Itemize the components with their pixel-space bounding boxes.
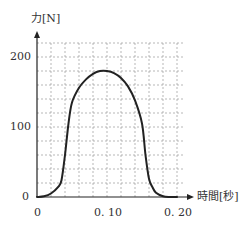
axes <box>34 31 194 200</box>
force-curve <box>37 71 177 197</box>
y-tick-0: 0 <box>22 191 29 202</box>
x-tick-010: 0. 10 <box>94 207 122 218</box>
y-axis-label: 力[N] <box>31 13 60 24</box>
x-tick-020: 0. 20 <box>164 207 192 218</box>
y-tick-200: 200 <box>10 51 31 62</box>
x-tick-0: 0 <box>34 207 41 218</box>
grid-lines <box>37 43 184 197</box>
x-axis-label: 時間[秒] <box>197 191 239 202</box>
y-tick-100: 100 <box>10 121 31 132</box>
x-axis-arrow-icon <box>187 194 194 200</box>
y-axis-arrow-icon <box>34 31 40 38</box>
